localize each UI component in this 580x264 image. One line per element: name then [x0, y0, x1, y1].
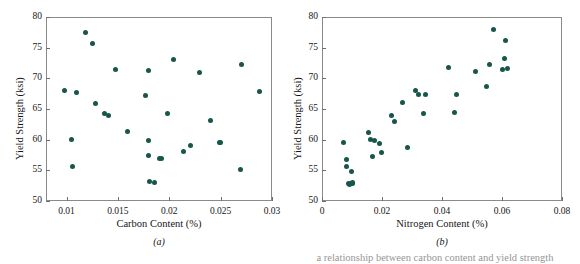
x-tick-a-2	[169, 197, 170, 201]
x-tick-label-a-0: 0.01	[58, 207, 75, 217]
x-tick-label-b-1: 0.02	[374, 207, 391, 217]
y-tick-label-b-1: 55	[296, 166, 318, 176]
panel-a-carbon-content: 50556065707580 0.010.0150.020.0250.03 Ca…	[0, 0, 290, 264]
plot-area-a	[46, 17, 272, 201]
scatter-plot-figure-pair: 50556065707580 0.010.0150.020.0250.03 Ca…	[0, 0, 580, 264]
data-point	[208, 118, 213, 123]
data-point	[83, 30, 88, 35]
x-tick-label-a-1: 0.015	[107, 207, 128, 217]
data-point	[416, 92, 421, 97]
x-tick-label-b-2: 0.04	[434, 207, 451, 217]
x-tick-label-b-4: 0.08	[554, 207, 571, 217]
y-tick-b-4	[322, 78, 326, 79]
x-tick-b-4	[562, 197, 563, 201]
x-tick-b-2	[442, 197, 443, 201]
x-tick-a-1	[118, 197, 119, 201]
plot-area-b	[322, 17, 562, 201]
panel-caption-a: (a)	[153, 236, 165, 247]
y-tick-label-b-5: 75	[296, 43, 318, 53]
x-tick-label-b-3: 0.06	[494, 207, 511, 217]
data-point	[423, 92, 428, 97]
x-tick-label-a-4: 0.03	[264, 207, 281, 217]
data-point	[197, 70, 202, 75]
y-tick-a-6	[46, 17, 50, 18]
data-point	[238, 167, 243, 172]
data-point	[392, 119, 397, 124]
y-axis-title-b: Yield Strength (ksi)	[292, 77, 303, 160]
data-point	[344, 164, 349, 169]
y-tick-a-1	[46, 170, 50, 171]
data-point	[500, 67, 505, 72]
x-tick-label-b-0: 0	[320, 207, 325, 217]
data-point	[165, 111, 170, 116]
data-point	[405, 145, 410, 150]
y-tick-label-a-6: 80	[20, 12, 42, 22]
y-tick-label-a-0: 50	[20, 196, 42, 206]
data-point	[218, 140, 223, 145]
x-tick-label-a-2: 0.02	[161, 207, 178, 217]
data-point	[239, 62, 244, 67]
data-point	[125, 129, 130, 134]
x-tick-label-a-3: 0.025	[210, 207, 231, 217]
data-point	[159, 156, 164, 161]
y-tick-b-2	[322, 140, 326, 141]
x-tick-b-3	[502, 197, 503, 201]
x-axis-title-b: Nitrogen Content (%)	[396, 218, 488, 229]
x-tick-a-0	[67, 197, 68, 201]
y-tick-a-2	[46, 140, 50, 141]
y-tick-a-5	[46, 48, 50, 49]
data-point	[491, 27, 496, 32]
x-tick-b-1	[382, 197, 383, 201]
y-tick-b-6	[322, 17, 326, 18]
x-tick-a-3	[221, 197, 222, 201]
y-tick-b-5	[322, 48, 326, 49]
y-tick-a-4	[46, 78, 50, 79]
x-tick-b-0	[322, 197, 323, 201]
panel-b-nitrogen-content: 50556065707580 00.020.040.060.08 Nitroge…	[290, 0, 580, 264]
data-point	[366, 130, 371, 135]
y-tick-b-0	[322, 201, 326, 202]
y-tick-b-1	[322, 170, 326, 171]
x-axis-title-a: Carbon Content (%)	[116, 218, 201, 229]
data-point	[400, 100, 405, 105]
data-point	[93, 101, 98, 106]
data-point	[487, 62, 492, 67]
y-tick-label-b-0: 50	[296, 196, 318, 206]
panel-caption-b: (b)	[436, 236, 448, 247]
data-point	[379, 150, 384, 155]
data-point	[446, 65, 451, 70]
data-point	[421, 111, 426, 116]
y-tick-a-0	[46, 201, 50, 202]
data-point	[349, 169, 354, 174]
data-point	[452, 110, 457, 115]
figure-caption-fragment: a relationship between carbon content an…	[290, 252, 580, 264]
data-point	[505, 66, 510, 71]
y-axis-title-a: Yield Strength (ksi)	[14, 77, 25, 160]
y-tick-label-b-6: 80	[296, 12, 318, 22]
y-tick-a-3	[46, 109, 50, 110]
data-point	[454, 92, 459, 97]
data-point	[370, 154, 375, 159]
y-tick-label-a-5: 75	[20, 43, 42, 53]
data-point	[181, 149, 186, 154]
y-tick-label-a-1: 55	[20, 166, 42, 176]
data-point	[473, 69, 478, 74]
x-tick-a-4	[272, 197, 273, 201]
y-tick-b-3	[322, 109, 326, 110]
